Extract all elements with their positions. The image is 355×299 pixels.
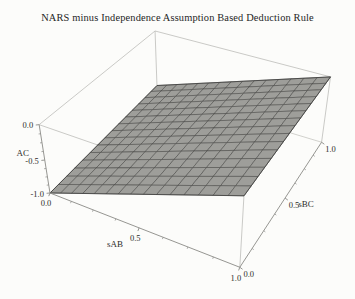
x-axis-tick-label: 1.0 <box>231 273 242 283</box>
z-axis-title: AC <box>17 148 30 158</box>
y-axis-tick-label: 1.0 <box>325 144 336 154</box>
y-axis-title: sBC <box>298 199 314 209</box>
x-axis-title: sAB <box>107 239 123 249</box>
surface-mesh <box>50 77 331 196</box>
z-axis-tick-label: 0.0 <box>23 120 34 130</box>
deduction-rule-figure: NARS minus Independence Assumption Based… <box>0 0 355 299</box>
z-axis-tick-label: -1.0 <box>31 189 44 199</box>
y-axis-tick-label: 0.0 <box>243 269 254 279</box>
x-axis-tick-label: 0.0 <box>41 198 52 208</box>
surface-plot-canvas: 0.0-0.5-1.00.00.51.00.00.51.0ACsABsBC <box>0 0 355 299</box>
x-axis-tick-label: 0.5 <box>130 233 141 243</box>
